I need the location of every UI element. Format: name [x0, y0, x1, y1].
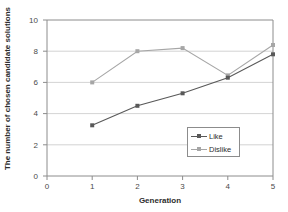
x-axis-tick-label-2: 2	[127, 182, 147, 191]
series-like-point	[181, 91, 185, 95]
series-like-point	[226, 76, 230, 80]
series-dislike-point	[90, 80, 94, 84]
legend-marker-dislike-icon	[191, 145, 207, 154]
y-axis-tick-label-6: 6	[18, 78, 38, 87]
series-like-point	[90, 123, 94, 127]
x-axis-ticks	[47, 176, 273, 180]
y-axis-tick-label-0: 0	[18, 172, 38, 181]
plot-area	[0, 0, 288, 212]
x-axis-tick-label-4: 4	[218, 182, 238, 191]
y-axis-title: The number of chosen candidate solutions	[4, 6, 13, 169]
x-axis-tick-label-5: 5	[263, 182, 283, 191]
chart-legend: Like Dislike	[187, 127, 240, 157]
legend-label-like: Like	[209, 132, 223, 141]
x-axis-tick-label-3: 3	[173, 182, 193, 191]
series-like-point	[135, 104, 139, 108]
y-axis-tick-label-2: 2	[18, 141, 38, 150]
y-axis-ticks	[43, 20, 47, 176]
chart-container: 10 8 6 4 2 0 0 1 2 3 4 5 The number of c…	[0, 0, 288, 212]
y-axis-tick-label-8: 8	[18, 47, 38, 56]
series-dislike-point	[271, 43, 275, 47]
series-like-point	[271, 52, 275, 56]
x-axis-tick-label-0: 0	[37, 182, 57, 191]
x-axis-title: Generation	[47, 196, 273, 205]
legend-item-dislike: Dislike	[191, 143, 236, 156]
legend-marker-like-icon	[191, 132, 207, 141]
legend-label-dislike: Dislike	[209, 145, 231, 154]
y-axis-tick-label-10: 10	[18, 16, 38, 25]
series-dislike-point	[181, 46, 185, 50]
series-dislike-point	[135, 49, 139, 53]
y-axis-title-container: The number of chosen candidate solutions	[0, 0, 16, 176]
x-axis-tick-label-1: 1	[82, 182, 102, 191]
y-axis-tick-label-4: 4	[18, 109, 38, 118]
legend-item-like: Like	[191, 130, 236, 143]
